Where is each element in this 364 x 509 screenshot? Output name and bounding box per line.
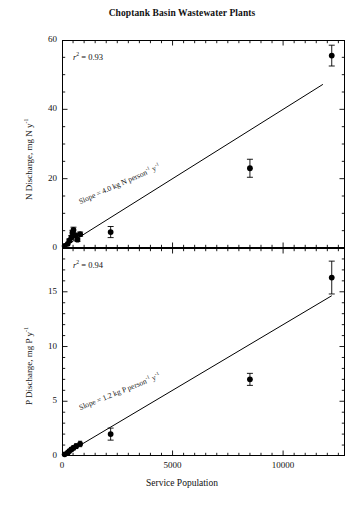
data-marker: [108, 229, 114, 235]
x-tick-label: 10000: [258, 460, 308, 470]
x-tick-label: 0: [37, 460, 87, 470]
y-axis-label-text-top: N Discharge, mg N y: [24, 123, 34, 200]
data-point: [77, 441, 83, 447]
data-marker: [71, 227, 77, 233]
data-point: [247, 373, 253, 385]
regression-line: [69, 296, 332, 452]
data-marker: [108, 431, 114, 437]
y-axis-label-exponent-top: -1: [23, 118, 29, 123]
panel-phosphorus: [62, 248, 345, 456]
y-axis-label-top: N Discharge, mg N y-1: [24, 118, 34, 200]
r2-value-top: = 0.93: [79, 52, 103, 62]
y-tick-label: 15: [36, 286, 57, 296]
data-marker: [329, 53, 335, 59]
y-axis-label-bottom: P Discharge, mg P y-1: [24, 327, 34, 405]
data-marker: [77, 441, 83, 447]
data-point: [247, 159, 253, 177]
plot-area-top: [62, 40, 345, 248]
data-marker: [77, 231, 83, 237]
y-tick-label: 60: [36, 34, 57, 44]
data-marker: [247, 165, 253, 171]
x-axis-title: Service Population: [0, 478, 364, 488]
data-point: [74, 237, 80, 243]
r-squared-annotation-top: r2 = 0.93: [73, 52, 103, 62]
y-tick-label: 20: [36, 173, 57, 183]
data-point: [77, 231, 83, 237]
data-point: [329, 261, 335, 294]
y-tick-label: 5: [36, 395, 57, 405]
data-marker: [247, 376, 253, 382]
data-marker: [75, 237, 81, 243]
data-point: [329, 45, 335, 66]
plot-area-bottom: [62, 248, 345, 456]
r-squared-annotation-bottom: r2 = 0.94: [73, 260, 103, 270]
r2-value-bottom: = 0.94: [79, 260, 103, 270]
y-axis-label-exponent-bottom: -1: [23, 327, 29, 332]
y-tick-label: 0: [36, 242, 57, 252]
y-tick-label: 0: [36, 450, 57, 460]
data-marker: [329, 275, 335, 281]
figure-container: Choptank Basin Wastewater Plants r2 = 0.…: [0, 0, 364, 509]
y-tick-label: 10: [36, 341, 57, 351]
data-point: [108, 227, 114, 238]
chart-title: Choptank Basin Wastewater Plants: [0, 8, 364, 18]
y-axis-label-text-bottom: P Discharge, mg P y: [24, 332, 34, 405]
y-tick-label: 40: [36, 103, 57, 113]
data-point: [108, 428, 114, 440]
panel-nitrogen: [62, 40, 345, 248]
regression-line: [71, 84, 323, 242]
x-tick-label: 5000: [148, 460, 198, 470]
